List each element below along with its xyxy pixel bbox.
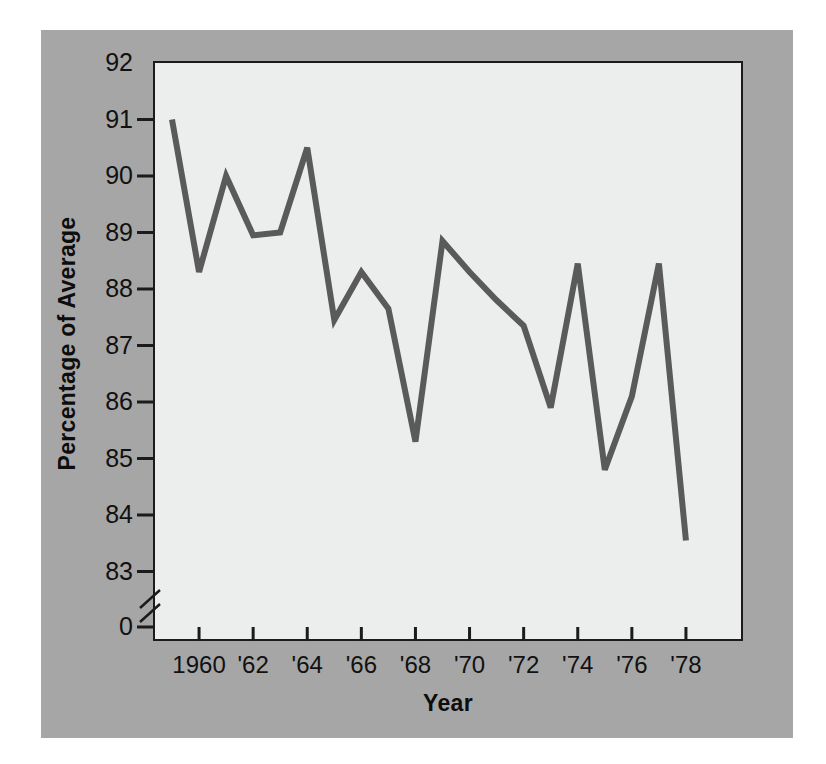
data-series-line: [172, 120, 686, 541]
y-tick-label: 92: [73, 50, 133, 75]
y-axis-title: Percentage of Average: [54, 214, 81, 474]
y-tick-label: 83: [73, 559, 133, 584]
y-tick-label: 84: [73, 502, 133, 527]
y-tick-label: 0: [73, 614, 133, 639]
y-tick-label: 88: [73, 276, 133, 301]
y-tick-label: 85: [73, 446, 133, 471]
x-axis-ticks: [199, 627, 686, 641]
y-tick-label: 87: [73, 333, 133, 358]
chart-figure: 929190898887868584830 1960'62'64'66'68'7…: [0, 0, 826, 764]
y-axis-break-mark: [140, 590, 160, 622]
y-tick-label: 90: [73, 163, 133, 188]
x-axis-title: Year: [153, 690, 743, 717]
y-tick-label: 86: [73, 389, 133, 414]
y-axis-ticks: [137, 120, 153, 628]
y-tick-label: 91: [73, 107, 133, 132]
y-tick-label: 89: [73, 220, 133, 245]
x-tick-label: '78: [636, 653, 736, 677]
